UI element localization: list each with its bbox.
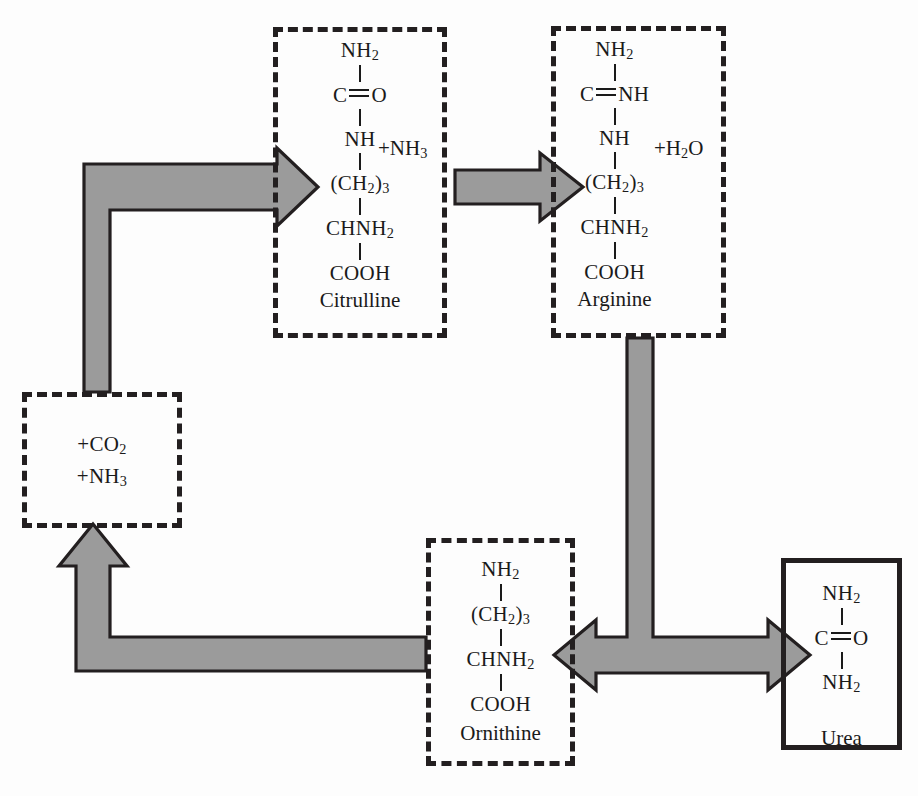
ornithine-line-cooh: COOH <box>431 692 570 717</box>
double-bond-icon <box>831 631 851 641</box>
bond <box>841 652 843 669</box>
bond <box>500 674 502 691</box>
citrulline-addend-nh3: +NH3 <box>378 136 427 162</box>
urea-line-nh2-bottom: NH2 <box>786 670 897 696</box>
arrow-arginine-to-ornithine-and-urea <box>554 338 810 690</box>
urea-line-co: CO <box>786 626 897 651</box>
ornithine-label: Ornithine <box>431 721 570 746</box>
urea-label: Urea <box>786 726 897 751</box>
bond <box>500 629 502 646</box>
bond <box>614 152 616 169</box>
node-arginine[interactable]: NH2 CNH NH (CH2)3 CHNH2 COOH Arginine <box>551 26 726 338</box>
ornithine-line-chnh2: CHNH2 <box>431 647 570 673</box>
urea-cycle-diagram: NH2 CO NH (CH2)3 CHNH2 COOH Citrulline +… <box>0 0 918 796</box>
arrow-ornithine-to-precursors <box>59 524 426 671</box>
atom-c: C <box>580 82 594 106</box>
precursors-line-co2: +CO2 <box>27 429 177 461</box>
bond <box>500 584 502 601</box>
node-citrulline[interactable]: NH2 CO NH (CH2)3 CHNH2 COOH Citrulline <box>273 27 447 338</box>
precursors-line-nh3: +NH3 <box>27 461 177 493</box>
bond <box>359 243 361 260</box>
citrulline-line-co: CO <box>278 83 442 108</box>
citrulline-line-nh2: NH2 <box>278 38 442 64</box>
arginine-line-nh2: NH2 <box>532 37 697 63</box>
arginine-line-ch2-3: (CH2)3 <box>532 170 697 196</box>
arginine-line-cooh: COOH <box>532 260 697 285</box>
node-ornithine[interactable]: NH2 (CH2)3 CHNH2 COOH Ornithine <box>426 538 575 766</box>
node-precursors[interactable]: +CO2 +NH3 <box>22 392 182 528</box>
node-urea[interactable]: NH2 CO NH2 Urea <box>781 558 902 750</box>
bond <box>841 608 843 625</box>
citrulline-label: Citrulline <box>278 288 442 313</box>
atom-o: O <box>853 626 868 650</box>
arginine-label: Arginine <box>532 287 697 312</box>
bond <box>614 108 616 125</box>
bond <box>359 198 361 215</box>
bond <box>614 197 616 214</box>
citrulline-line-ch2-3: (CH2)3 <box>278 171 442 197</box>
ornithine-line-ch2-3: (CH2)3 <box>431 602 570 628</box>
bond <box>614 242 616 259</box>
citrulline-line-cooh: COOH <box>278 261 442 286</box>
bond <box>359 65 361 82</box>
double-bond-icon <box>349 88 369 98</box>
ornithine-line-nh2: NH2 <box>431 557 570 583</box>
bond <box>614 64 616 81</box>
atom-c: C <box>333 83 347 107</box>
atom-c: C <box>815 626 829 650</box>
urea-line-nh2-top: NH2 <box>786 581 897 607</box>
citrulline-line-chnh2: CHNH2 <box>278 216 442 242</box>
bond <box>359 153 361 170</box>
atom-nh: NH <box>618 82 649 106</box>
arginine-line-cnh: CNH <box>532 82 697 107</box>
double-bond-icon <box>596 87 616 97</box>
bond <box>359 109 361 126</box>
arginine-addend-h2o: +H2O <box>654 136 703 162</box>
atom-o: O <box>371 83 386 107</box>
arginine-line-chnh2: CHNH2 <box>532 215 697 241</box>
